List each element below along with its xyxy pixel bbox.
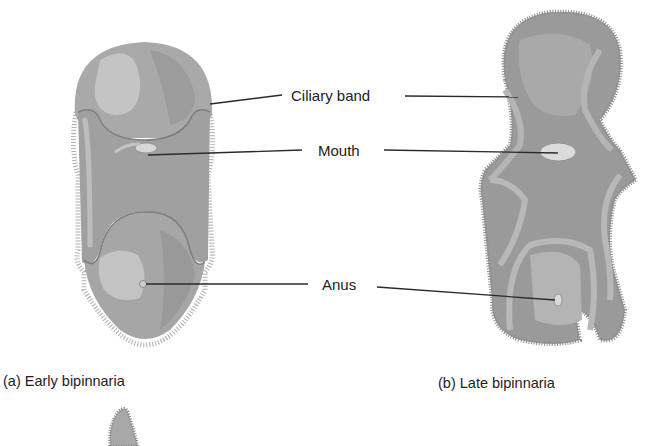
ciliary-band-leader-left [210,95,282,104]
caption-early-bipinnaria: (a) Early bipinnaria [3,374,125,389]
late-bipinnaria-larva [481,12,636,344]
label-anus: Anus [322,277,356,292]
early-bipinnaria-larva [73,42,212,345]
label-mouth: Mouth [318,143,360,158]
partial-larva-fragment [110,409,138,446]
caption-late-bipinnaria: (b) Late bipinnaria [438,376,555,391]
ciliary-band-leader-right [405,96,518,97]
label-ciliary-band: Ciliary band [291,88,370,103]
